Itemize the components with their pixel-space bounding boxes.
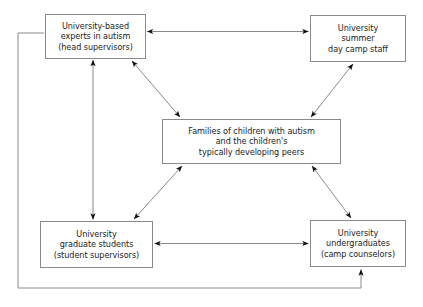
node-university-undergraduates[interactable]: University undergraduates (camp counselo… <box>310 220 406 267</box>
edge-undergraduates-families <box>312 166 351 218</box>
node-university-graduate-students[interactable]: University graduate students (student su… <box>40 221 153 268</box>
node-families-of-children[interactable]: Families of children with autism and the… <box>162 119 341 164</box>
node-university-graduate-students-label: University graduate students (student su… <box>52 229 141 261</box>
node-families-of-children-label: Families of children with autism and the… <box>186 126 316 158</box>
node-university-experts-label: University-based experts in autism (head… <box>56 21 135 53</box>
edge-experts-families <box>132 61 180 117</box>
node-university-summer-day-camp-staff-label: University summer day camp staff <box>326 23 390 55</box>
node-university-undergraduates-label: University undergraduates (camp counselo… <box>319 228 397 260</box>
node-university-summer-day-camp-staff[interactable]: University summer day camp staff <box>310 15 406 62</box>
edge-camp-staff-families <box>311 64 353 117</box>
edge-grad-students-families <box>134 166 182 219</box>
node-university-experts[interactable]: University-based experts in autism (head… <box>45 14 146 59</box>
diagram-canvas: University-based experts in autism (head… <box>0 0 423 307</box>
